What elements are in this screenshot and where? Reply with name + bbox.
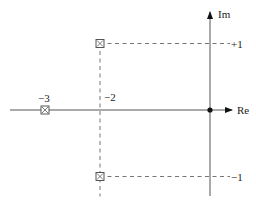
tick-label-minus3: −3 (38, 92, 50, 104)
pole-marker (96, 40, 104, 48)
real-axis-label: Re (237, 104, 249, 116)
origin-dot (207, 107, 212, 112)
imag-axis-label: Im (218, 8, 231, 20)
tick-label-minus2: −2 (104, 91, 116, 103)
pole-marker (96, 173, 104, 181)
tick-label-minus1: −1 (231, 171, 243, 183)
pole-marker (41, 106, 49, 114)
tick-label-plus1: +1 (231, 38, 243, 50)
complex-plane-diagram: Im Re +1 −1 −3 −2 (0, 0, 256, 206)
